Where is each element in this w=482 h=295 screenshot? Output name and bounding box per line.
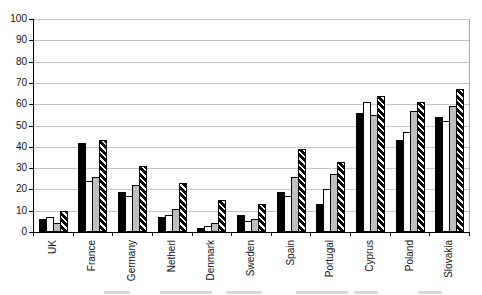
gridline-70 [33,83,469,84]
gridline-90 [33,40,469,41]
y-axis-tick-label: 60 [0,99,27,109]
x-axis-tick [231,232,232,236]
x-axis-tick [152,232,153,236]
bar-Portugal-hatched [337,162,345,232]
y-axis-tick-label: 40 [0,142,27,152]
bar-Netherl-hatched [179,183,187,232]
x-axis-category-label-text: France [86,240,98,271]
x-axis-tick [73,232,74,236]
x-axis-category-label-text: Slovakia [443,240,455,278]
gridline-100 [33,19,469,20]
y-axis-tick-label: 50 [0,121,27,131]
x-axis-tick [469,232,470,236]
gridline-50 [33,126,469,127]
bar-UK-hatched [60,211,68,232]
y-axis-tick-label: 100 [0,14,27,24]
bar-Germany-hatched [139,166,147,232]
x-axis-category-label-text: Germany [126,240,138,281]
y-axis-tick-label: 70 [0,78,27,88]
bar-Spain-hatched [298,149,306,232]
x-axis-tick [271,232,272,236]
gridline-60 [33,104,469,105]
bar-Poland-hatched [417,102,425,232]
x-axis-tick [350,232,351,236]
x-axis-tick [390,232,391,236]
x-axis-category-label-text: Cyprus [364,240,376,272]
bar-chart-figure: 0102030405060708090100 UKFranceGermanyNe… [0,0,482,295]
y-axis-line [33,19,34,233]
x-axis-tick [429,232,430,236]
gridline-80 [33,62,469,63]
bar-Cyprus-hatched [377,96,385,232]
y-axis-tick-label: 10 [0,206,27,216]
bar-Slovakia-hatched [456,89,464,232]
clipped-caption-fragment-4 [354,291,378,294]
x-axis-category-label-text: Portugal [324,240,336,277]
bar-France-hatched [99,140,107,232]
clipped-caption-fragment-2 [226,291,262,294]
x-axis-category-label-text: UK [47,240,59,254]
x-axis-category-label-text: Poland [404,240,416,271]
clipped-caption-fragment-5 [418,291,442,294]
y-axis-tick-label: 90 [0,35,27,45]
x-axis-category-label-text: Spain [285,240,297,266]
x-axis-tick [192,232,193,236]
plot-area-right-border [469,19,470,232]
x-axis-tick [310,232,311,236]
y-axis-tick-label: 0 [0,227,27,237]
y-axis-tick-label: 30 [0,163,27,173]
x-axis-category-label-text: Sweden [245,240,257,276]
x-axis-category-label-text: Denmark [205,240,217,281]
y-axis-tick-label: 80 [0,57,27,67]
x-axis-line [33,232,470,233]
bar-Sweden-hatched [258,204,266,232]
x-axis-tick [112,232,113,236]
x-axis-category-label-text: Netherl [166,240,178,272]
clipped-caption-fragment-0 [104,291,130,294]
y-axis-tick-label: 20 [0,184,27,194]
bar-Denmark-hatched [218,200,226,232]
clipped-caption-fragment-3 [296,291,348,294]
x-axis-tick [33,232,34,236]
clipped-caption-fragment-1 [160,291,212,294]
